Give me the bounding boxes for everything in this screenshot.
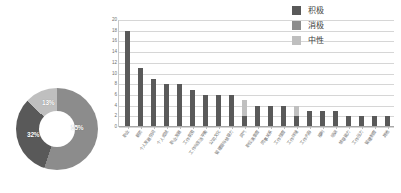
chart-legend: 积极消极中性 xyxy=(292,3,398,48)
legend-label: 中性 xyxy=(308,37,324,45)
bar-stack[interactable] xyxy=(190,20,195,127)
x-axis-label: 工作内容 xyxy=(300,130,313,146)
bar-segment-积极 xyxy=(333,111,338,127)
bar-slot[interactable] xyxy=(147,20,160,127)
bar-slot[interactable] xyxy=(134,20,147,127)
legend-swatch-icon xyxy=(292,6,301,15)
x-axis-label: 工作压力 xyxy=(352,130,365,146)
bar-stack[interactable] xyxy=(164,20,169,127)
bar-slot[interactable] xyxy=(160,20,173,127)
bar-stack[interactable] xyxy=(242,20,247,127)
bar-segment-积极 xyxy=(268,106,273,127)
bar-slot[interactable] xyxy=(264,20,277,127)
donut-chart: 55% 32% 13% xyxy=(9,84,105,182)
bar-segment-中性 xyxy=(294,106,299,117)
legend-swatch-icon xyxy=(292,36,301,45)
bar-stack[interactable] xyxy=(203,20,208,127)
gridline xyxy=(119,127,394,128)
x-label-slot: 个人发展空间 xyxy=(146,129,159,191)
x-label-slot: 个人成就 xyxy=(159,129,172,191)
donut-slice-label-negative: 32% xyxy=(27,131,39,138)
bar-stack[interactable] xyxy=(255,20,260,127)
bar-segment-积极 xyxy=(203,95,208,127)
x-axis-label: 福利 xyxy=(318,130,326,139)
y-axis-tick-label: 18 xyxy=(112,28,117,33)
bar-segment-积极 xyxy=(229,95,234,127)
x-axis-label: 工作环境 xyxy=(287,130,300,146)
y-axis-tick-label: 0 xyxy=(114,125,117,130)
y-axis-tick-label: 16 xyxy=(112,39,117,44)
x-axis-line xyxy=(119,126,394,127)
bar-slot[interactable] xyxy=(251,20,264,127)
bar-slot[interactable] xyxy=(173,20,186,127)
x-label-slot: 其他 xyxy=(381,129,394,191)
bar-segment-积极 xyxy=(190,90,195,127)
x-label-slot: 职业 xyxy=(120,129,133,191)
bar-segment-积极 xyxy=(125,31,130,127)
bar-slot[interactable] xyxy=(199,20,212,127)
bar-stack[interactable] xyxy=(138,20,143,127)
bar-slot[interactable] xyxy=(225,20,238,127)
x-axis-label: 管理制度 xyxy=(365,130,378,146)
bar-stack[interactable] xyxy=(281,20,286,127)
legend-item-neutral[interactable]: 中性 xyxy=(292,33,398,48)
x-label-slot: 薪资 xyxy=(133,129,146,191)
x-axis-label: 领导能力 xyxy=(339,130,352,146)
x-axis-labels: 职业薪资个人发展空间个人成就职业发展工作氛围工作与生活平衡公司文化管理层与领导力… xyxy=(118,129,394,191)
legend-item-positive[interactable]: 积极 xyxy=(292,3,398,18)
bar-segment-积极 xyxy=(151,79,156,127)
y-axis-tick-label: 14 xyxy=(112,50,117,55)
x-axis-label: 培训 xyxy=(331,130,339,139)
bar-stack[interactable] xyxy=(216,20,221,127)
bar-slot[interactable] xyxy=(277,20,290,127)
x-axis-label: 个人成就 xyxy=(156,130,169,146)
donut-slice-label-positive: 55% xyxy=(71,124,83,131)
y-axis-tick-label: 8 xyxy=(114,82,117,87)
x-axis-label: 同事关系 xyxy=(261,130,274,146)
chart-page: 55% 32% 13% 02468101214161820 职业薪资个人发展空间… xyxy=(0,0,401,193)
y-axis-tick-label: 10 xyxy=(112,71,117,76)
legend-label: 消极 xyxy=(308,22,324,30)
legend-swatch-icon xyxy=(292,21,301,30)
y-axis-tick-label: 4 xyxy=(114,103,117,108)
x-axis-label: 工作强度 xyxy=(274,130,287,146)
bar-segment-积极 xyxy=(164,84,169,127)
bar-stack[interactable] xyxy=(177,20,182,127)
bar-slot[interactable] xyxy=(238,20,251,127)
x-axis-label: 薪资 xyxy=(135,130,143,139)
bar-segment-积极 xyxy=(307,111,312,127)
x-label-slot: 职业发展 xyxy=(172,129,185,191)
bar-segment-中性 xyxy=(242,100,247,116)
x-label-slot: 管理制度 xyxy=(368,129,381,191)
donut-hole xyxy=(39,111,75,147)
bar-slot[interactable] xyxy=(212,20,225,127)
y-axis-tick-label: 20 xyxy=(112,18,117,23)
legend-item-negative[interactable]: 消极 xyxy=(292,18,398,33)
x-label-slot: 管理层与领导力 xyxy=(224,129,237,191)
x-label-slot: 福利 xyxy=(316,129,329,191)
y-axis-tick-label: 2 xyxy=(114,114,117,119)
legend-label: 积极 xyxy=(308,7,324,15)
bar-slot[interactable] xyxy=(186,20,199,127)
bar-slot[interactable] xyxy=(121,20,134,127)
x-axis-label: 职业 xyxy=(122,130,130,139)
bar-stack[interactable] xyxy=(151,20,156,127)
x-axis-label: 其他 xyxy=(383,130,391,139)
y-axis-tick-label: 6 xyxy=(114,93,117,98)
bar-segment-积极 xyxy=(320,111,325,127)
y-axis-tick-label: 12 xyxy=(112,61,117,66)
bar-stack[interactable] xyxy=(229,20,234,127)
bar-stack[interactable] xyxy=(268,20,273,127)
x-axis-label: 风气 xyxy=(239,130,247,139)
bar-segment-积极 xyxy=(216,95,221,127)
x-axis-label: 职业发展 xyxy=(170,130,183,146)
bar-stack[interactable] xyxy=(125,20,130,127)
bar-segment-积极 xyxy=(281,106,286,127)
bar-segment-积极 xyxy=(255,106,260,127)
donut-slice-label-neutral: 13% xyxy=(42,99,54,106)
bar-segment-积极 xyxy=(177,84,182,127)
bar-segment-积极 xyxy=(138,68,143,127)
x-label-slot: 工作内容 xyxy=(303,129,316,191)
